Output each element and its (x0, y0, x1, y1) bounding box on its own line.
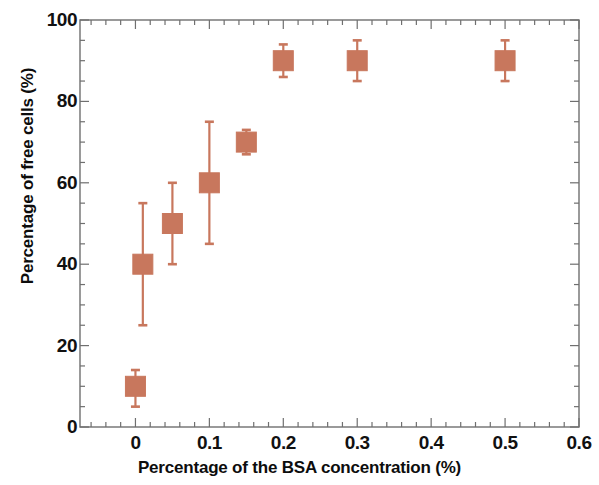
data-point (125, 370, 145, 407)
chart-figure: Percentage of free cells (%) Percentage … (0, 0, 599, 485)
data-point (273, 44, 293, 77)
data-point (162, 183, 182, 264)
data-point (236, 130, 256, 154)
data-point (495, 40, 515, 81)
data-point (199, 122, 219, 244)
data-series (125, 40, 515, 406)
data-point (133, 203, 153, 325)
plot-area (0, 0, 599, 485)
data-point (347, 40, 367, 81)
